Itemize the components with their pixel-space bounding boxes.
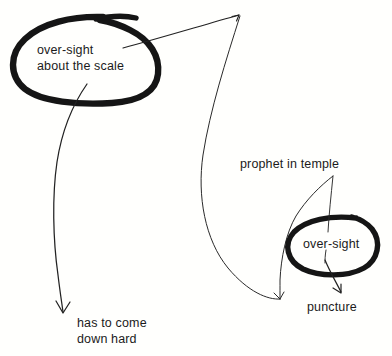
annotation-line-2: about the scale bbox=[37, 59, 124, 73]
annotation-line-2: down hard bbox=[77, 332, 137, 346]
annotation-line-1: over-sight bbox=[37, 43, 93, 57]
annotation-prophet-in-temple: prophet in temple bbox=[240, 157, 339, 173]
annotation-over-sight-about-the-scale: over-sightabout the scale bbox=[37, 43, 124, 74]
annotation-over-sight-small: over-sight bbox=[303, 237, 359, 253]
arrow-scale-to-has-to-come bbox=[54, 84, 87, 313]
annotation-line-1: has to come bbox=[77, 316, 147, 330]
arrow-scale-to-apex bbox=[123, 15, 239, 48]
sketch-canvas: over-sightabout the scale prophet in tem… bbox=[0, 0, 392, 356]
annotation-has-to-come-down-hard: has to comedown hard bbox=[77, 316, 147, 347]
annotation-puncture: puncture bbox=[307, 300, 357, 316]
